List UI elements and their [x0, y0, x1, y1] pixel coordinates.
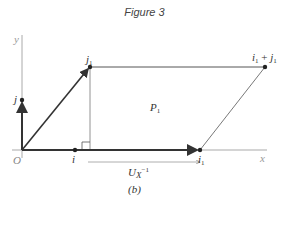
i1-label: i1: [198, 154, 205, 167]
x-axis-label: x: [260, 153, 265, 164]
p1-subscript: 1: [157, 107, 161, 115]
sum-plus: +: [259, 51, 271, 63]
transform-label: UX−1: [128, 167, 149, 180]
figure-caption: (b): [128, 184, 141, 195]
point-i1-plus-j1: [263, 65, 267, 69]
region-p1-label: P1: [150, 102, 160, 115]
origin-label: O: [13, 155, 21, 166]
i-label: i: [72, 154, 75, 165]
point-j: [20, 98, 24, 102]
sum-j-subscript: 1: [273, 57, 277, 65]
transform-superscript: −1: [141, 166, 148, 174]
p1-base: P: [150, 101, 157, 113]
j1-subscript: 1: [89, 59, 93, 67]
parallelogram-right-edge: [200, 67, 265, 150]
vector-j1: [22, 69, 88, 150]
i1-subscript: 1: [201, 159, 205, 167]
y-axis-label: y: [14, 34, 19, 45]
point-i: [73, 148, 77, 152]
i1-plus-j1-label: i1 + j1: [252, 52, 277, 65]
right-angle-marker: [82, 142, 90, 150]
j1-label: j1: [86, 54, 93, 67]
point-i1: [198, 148, 202, 152]
j-label: j: [14, 94, 17, 105]
transform-base: U: [128, 166, 136, 178]
